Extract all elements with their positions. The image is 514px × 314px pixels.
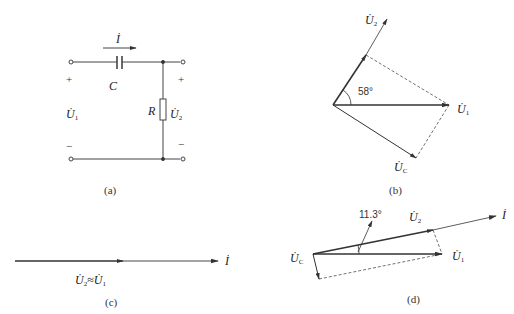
phasor-uc <box>333 105 416 158</box>
phasor-uc-d <box>313 254 319 279</box>
dashed-u2-to-u1-d <box>433 230 442 254</box>
terminal-in-top <box>69 60 73 64</box>
panel-d-phasors <box>313 216 496 279</box>
caption-b: (b) <box>389 184 402 197</box>
output-minus-sign: − <box>178 138 184 150</box>
dashed-u1-to-uc <box>416 105 449 158</box>
caption-a: (a) <box>104 184 117 197</box>
capacitor-label: C <box>109 79 118 93</box>
u2-label: U̇2 <box>365 13 378 28</box>
input-plus-sign: + <box>66 73 72 85</box>
terminal-out-bottom <box>181 157 185 161</box>
relation-label: U̇2≈U̇1 <box>75 273 106 288</box>
angle-label-58: 58° <box>358 86 373 97</box>
resistor-label: R <box>147 104 156 118</box>
angle-arc-58 <box>343 90 351 105</box>
angle-label-11: 11.3° <box>359 209 382 220</box>
caption-c: (c) <box>105 296 118 309</box>
current-label: İ <box>115 32 121 46</box>
dashed-u2-to-u1 <box>366 55 449 105</box>
uc-label-d: U̇C <box>290 251 304 266</box>
angle-pointer <box>358 221 372 252</box>
panel-b-phasors <box>333 19 449 158</box>
resistor-body <box>160 99 166 120</box>
current-label-c: İ <box>224 254 230 268</box>
uc-label: U̇C <box>394 160 408 175</box>
u2-label-d: U̇2 <box>409 210 422 225</box>
caption-d: (d) <box>407 293 420 306</box>
phasor-u2-d <box>313 230 433 254</box>
current-phasor-d <box>433 216 496 230</box>
u1-label: U̇1 <box>457 102 470 117</box>
u1-label-d: U̇1 <box>452 249 465 264</box>
input-minus-sign: − <box>66 140 72 152</box>
dashed-uc-to-u1-d <box>319 254 442 279</box>
terminal-out-top <box>181 60 185 64</box>
output-plus-sign: + <box>178 73 184 85</box>
input-voltage-label: U̇1 <box>66 107 79 122</box>
terminal-in-bottom <box>69 157 73 161</box>
node-top <box>161 60 164 63</box>
node-bottom <box>161 157 164 160</box>
current-label-d: İ <box>501 208 507 222</box>
panel-a-circuit <box>69 48 185 161</box>
output-voltage-label: U̇2 <box>170 107 183 122</box>
